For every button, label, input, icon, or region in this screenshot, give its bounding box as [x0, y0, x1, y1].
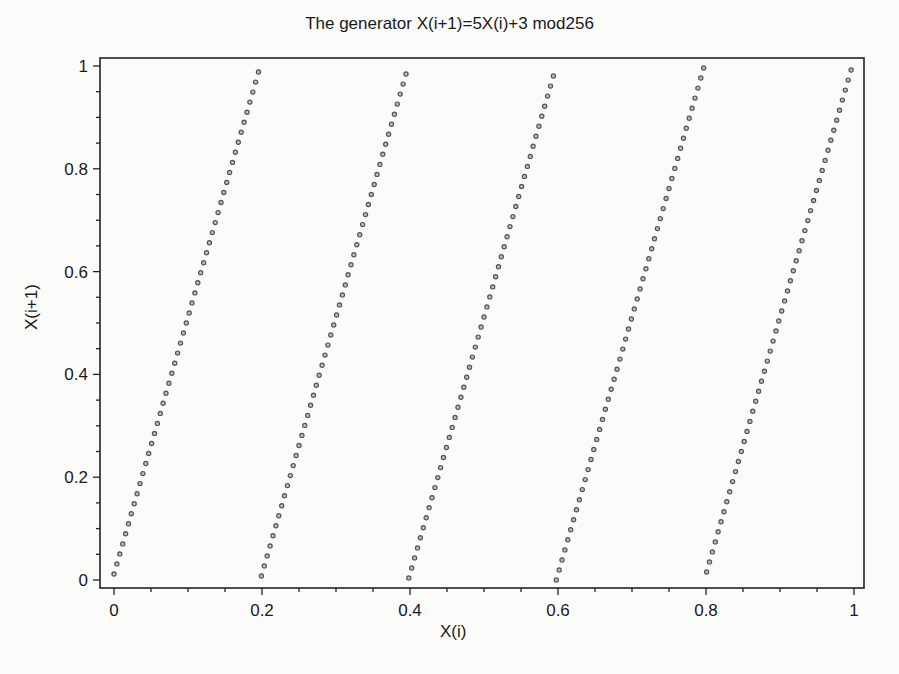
- data-point: [520, 184, 524, 188]
- data-point: [361, 223, 365, 227]
- data-point: [667, 186, 671, 190]
- data-point: [655, 227, 659, 231]
- data-point: [722, 510, 726, 514]
- data-point: [759, 379, 763, 383]
- data-point: [797, 249, 801, 253]
- data-point: [216, 211, 220, 215]
- data-point: [716, 530, 720, 534]
- data-point: [546, 94, 550, 98]
- data-point: [349, 263, 353, 267]
- data-point: [256, 70, 260, 74]
- data-point: [586, 468, 590, 472]
- data-point: [644, 267, 648, 271]
- data-point: [554, 578, 558, 582]
- data-point: [638, 287, 642, 291]
- data-point: [366, 202, 370, 206]
- data-point: [733, 470, 737, 474]
- data-point: [832, 128, 836, 132]
- data-point: [401, 82, 405, 86]
- data-point: [297, 443, 301, 447]
- data-point: [600, 417, 604, 421]
- data-point: [745, 429, 749, 433]
- data-point: [239, 130, 243, 134]
- data-point: [609, 387, 613, 391]
- data-point: [326, 343, 330, 347]
- data-point: [514, 204, 518, 208]
- data-point: [369, 192, 373, 196]
- data-point: [184, 321, 188, 325]
- data-point: [311, 393, 315, 397]
- data-point: [424, 516, 428, 520]
- data-point: [713, 540, 717, 544]
- data-point: [236, 140, 240, 144]
- data-point: [268, 544, 272, 548]
- data-point: [632, 307, 636, 311]
- data-point: [543, 104, 547, 108]
- data-point: [384, 142, 388, 146]
- data-point: [494, 275, 498, 279]
- data-point: [389, 122, 393, 126]
- data-point: [635, 297, 639, 301]
- data-point: [242, 120, 246, 124]
- data-point: [476, 335, 480, 339]
- data-point: [803, 229, 807, 233]
- data-point: [670, 176, 674, 180]
- data-point: [652, 237, 656, 241]
- data-point: [707, 560, 711, 564]
- data-point: [788, 279, 792, 283]
- data-point: [731, 480, 735, 484]
- data-point: [262, 564, 266, 568]
- data-point: [572, 518, 576, 522]
- data-point: [522, 174, 526, 178]
- data-point: [164, 391, 168, 395]
- data-point: [774, 329, 778, 333]
- x-tick-label: 0.4: [398, 601, 422, 620]
- data-point: [800, 239, 804, 243]
- data-point: [612, 377, 616, 381]
- data-point: [421, 526, 425, 530]
- data-point: [462, 385, 466, 389]
- data-point: [415, 546, 419, 550]
- x-tick-label: 1: [849, 601, 858, 620]
- data-point: [413, 556, 417, 560]
- data-point: [629, 317, 633, 321]
- data-point: [574, 508, 578, 512]
- data-point: [791, 269, 795, 273]
- data-point: [213, 221, 217, 225]
- data-point: [647, 257, 651, 261]
- data-point: [705, 570, 709, 574]
- y-tick-label: 0.8: [64, 160, 88, 179]
- data-point: [210, 231, 214, 235]
- data-point: [135, 492, 139, 496]
- data-point: [152, 431, 156, 435]
- data-point: [690, 106, 694, 110]
- data-point: [219, 200, 223, 204]
- data-point: [728, 490, 732, 494]
- data-point: [285, 484, 289, 488]
- data-point: [528, 154, 532, 158]
- data-point: [118, 552, 122, 556]
- data-point: [725, 500, 729, 504]
- data-points: [112, 66, 853, 582]
- data-point: [551, 74, 555, 78]
- data-point: [398, 92, 402, 96]
- data-point: [254, 80, 258, 84]
- data-point: [517, 194, 521, 198]
- data-point: [381, 152, 385, 156]
- data-point: [615, 367, 619, 371]
- plot-area: 00.20.40.60.81 00.20.40.60.81: [0, 0, 899, 674]
- data-point: [329, 333, 333, 337]
- data-point: [387, 132, 391, 136]
- x-axis: 00.20.40.60.81: [109, 588, 858, 620]
- data-point: [540, 114, 544, 118]
- y-tick-label: 0.6: [64, 263, 88, 282]
- data-point: [780, 309, 784, 313]
- data-point: [427, 506, 431, 510]
- data-point: [499, 255, 503, 259]
- data-point: [658, 217, 662, 221]
- data-point: [485, 305, 489, 309]
- x-tick-label: 0.2: [250, 601, 274, 620]
- data-point: [580, 488, 584, 492]
- data-point: [207, 241, 211, 245]
- data-point: [228, 170, 232, 174]
